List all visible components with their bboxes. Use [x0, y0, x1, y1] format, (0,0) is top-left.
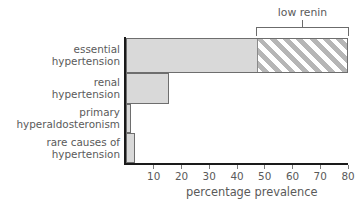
category-label-line: hypertension [0, 148, 120, 160]
category-label-line: essential [0, 43, 120, 55]
x-axis-tick-label: 10 [141, 170, 167, 182]
x-axis-tick [264, 165, 265, 170]
x-axis-tick-label: 60 [280, 170, 306, 182]
low-renin-bracket-stem [302, 20, 303, 28]
x-axis-tick [320, 165, 321, 170]
x-axis-tick-label: 80 [335, 170, 357, 182]
category-label-rare-causes-of-hypertension: rare causes of hypertension [0, 136, 120, 160]
category-label-line: hypertension [0, 88, 120, 100]
x-axis-tick-label: 40 [224, 170, 250, 182]
x-axis-tick [237, 165, 238, 170]
x-axis-tick [181, 165, 182, 170]
bar-essential-hypertension [126, 38, 348, 73]
low-renin-bracket [256, 27, 349, 36]
x-axis-tick [292, 165, 293, 170]
low-renin-annotation-label: low renin [256, 6, 349, 19]
category-label-primary-hyperaldosteronism: primary hyperaldosteronism [0, 106, 120, 130]
x-axis-title: percentage prevalence [186, 185, 318, 199]
category-labels: essential hypertension renal hypertensio… [0, 0, 120, 209]
x-axis-tick-label: 30 [196, 170, 222, 182]
category-label-line: renal [0, 76, 120, 88]
x-axis-tick [348, 165, 349, 170]
bar-primary-hyperaldosteronism [126, 104, 131, 133]
category-label-renal-hypertension: renal hypertension [0, 76, 120, 100]
bar-renal-hypertension [126, 73, 169, 104]
x-axis-tick [209, 165, 210, 170]
bar-rare-causes-of-hypertension [126, 133, 136, 163]
bar-segment-plain [127, 39, 257, 72]
category-label-line: hypertension [0, 55, 120, 67]
y-axis-line [124, 37, 126, 165]
x-axis-tick [153, 165, 154, 170]
category-label-line: primary [0, 106, 120, 118]
category-label-line: rare causes of [0, 136, 120, 148]
category-label-line: hyperaldosteronism [0, 118, 120, 130]
category-label-essential-hypertension: essential hypertension [0, 43, 120, 67]
bar-chart: low renin essential hypertension renal h… [0, 0, 357, 209]
x-axis-tick-label: 20 [169, 170, 195, 182]
bar-segment-low-renin-hatched [257, 39, 347, 72]
x-axis-tick-label: 70 [307, 170, 333, 182]
x-axis-tick-label: 50 [252, 170, 278, 182]
